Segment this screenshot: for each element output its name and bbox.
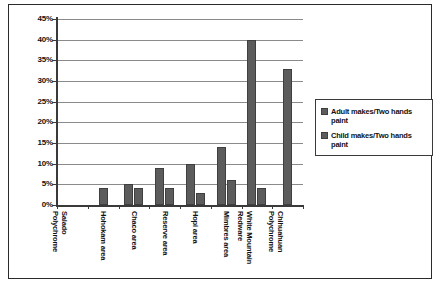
x-axis-tick-label: Hohokam area [99,211,108,283]
bar-group [57,19,88,205]
legend-swatch-child-icon [321,132,328,139]
chart-legend: Adult makes/Two hands paint Child makes/… [315,99,433,156]
bar-adult [99,188,108,205]
bar-group [211,19,242,205]
bar-child [196,193,205,205]
x-axis-tick [119,205,120,209]
x-axis-tick [180,205,181,209]
bar-adult [155,168,164,205]
y-axis-tick-label: 25% [13,98,53,106]
y-axis-tick-label: 45% [13,15,53,23]
y-axis-tick-label: 5% [13,180,53,188]
y-axis-tick-label: 30% [13,77,53,85]
x-axis-tick [303,205,304,209]
x-axis-tick [149,205,150,209]
y-axis-tick-label: 0% [13,201,53,209]
x-axis-tick [242,205,243,209]
x-axis-tick-label: ChihuahuanPolychrome [267,211,284,283]
x-axis-tick [211,205,212,209]
y-axis-tick-label: 15% [13,139,53,147]
bar-adult [283,69,292,205]
y-axis-tick-label: 35% [13,56,53,64]
bar-child [165,188,174,205]
bar-adult [217,147,226,205]
x-axis-tick-label: Hopi area [191,211,200,283]
bar-group [242,19,273,205]
chart-frame: 45%40%35%30%25%20%15%10%5%0% SaladoPolyc… [8,4,432,279]
y-axis-tick-label: 40% [13,36,53,44]
bars-area [57,19,303,205]
y-axis-tick-label: 10% [13,160,53,168]
bar-group [272,19,303,205]
bar-child [257,188,266,205]
bar-adult [247,40,256,205]
bar-group [119,19,150,205]
bar-adult [186,164,195,205]
x-axis-tick-label: SaladoPolychrome [51,211,68,283]
legend-label-adult: Adult makes/Two hands paint [331,107,428,125]
bar-group [180,19,211,205]
x-axis-tick-label: Chaco area [129,211,138,283]
legend-label-child: Child makes/Two hands paint [331,131,428,149]
bar-adult [124,184,133,205]
bar-child [134,188,143,205]
x-axis-tick [272,205,273,209]
bar-group [88,19,119,205]
x-axis-tick-label: White MountainRedware [236,211,253,283]
x-axis-tick [57,205,58,209]
legend-item: Adult makes/Two hands paint [321,107,428,125]
bar-child [227,180,236,205]
x-axis-tick [88,205,89,209]
x-axis-tick-label: Reserve area [160,211,169,283]
y-axis-tick-label: 20% [13,118,53,126]
x-axis-tick-label: Mimbres area [222,211,231,283]
legend-swatch-adult-icon [321,108,328,115]
y-axis-labels: 45%40%35%30%25%20%15%10%5%0% [9,5,53,225]
legend-item: Child makes/Two hands paint [321,131,428,149]
bar-group [149,19,180,205]
